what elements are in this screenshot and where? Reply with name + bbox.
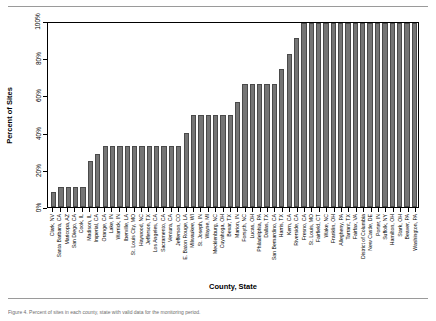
x-tick-slot bbox=[168, 208, 175, 212]
bar[interactable] bbox=[110, 146, 115, 207]
bar[interactable] bbox=[301, 23, 306, 207]
bar[interactable] bbox=[250, 84, 255, 207]
bar[interactable] bbox=[51, 192, 56, 207]
bar[interactable] bbox=[66, 187, 71, 207]
bar[interactable] bbox=[316, 23, 321, 207]
bar[interactable] bbox=[404, 23, 409, 207]
bar-slot bbox=[293, 23, 300, 207]
x-tick-mark bbox=[348, 208, 349, 212]
bar[interactable] bbox=[228, 115, 233, 207]
bar[interactable] bbox=[117, 146, 122, 207]
bar[interactable] bbox=[88, 161, 93, 207]
bar[interactable] bbox=[390, 23, 395, 207]
x-tick-mark bbox=[282, 208, 283, 212]
bar[interactable] bbox=[309, 23, 314, 207]
bar[interactable] bbox=[345, 23, 350, 207]
bar-slot bbox=[256, 23, 263, 207]
bar[interactable] bbox=[184, 133, 189, 207]
bar[interactable] bbox=[139, 146, 144, 207]
bar[interactable] bbox=[103, 146, 108, 207]
x-label-slot: Los Angeles, CA bbox=[153, 213, 160, 279]
bar[interactable] bbox=[264, 84, 269, 207]
x-tick-slot bbox=[227, 208, 234, 212]
x-axis-tick-label: Ventura, CA bbox=[169, 214, 174, 242]
bar[interactable] bbox=[294, 38, 299, 207]
x-label-slot: Clark, NV bbox=[49, 213, 56, 279]
bar[interactable] bbox=[176, 146, 181, 207]
x-axis-tick-label: Fairfield, CT bbox=[317, 214, 322, 242]
bar-slot bbox=[79, 23, 86, 207]
bar-slot bbox=[315, 23, 322, 207]
x-tick-mark bbox=[245, 208, 246, 212]
bar[interactable] bbox=[73, 187, 78, 207]
bar[interactable] bbox=[397, 23, 402, 207]
bar-slot bbox=[197, 23, 204, 207]
bar[interactable] bbox=[272, 84, 277, 207]
bar[interactable] bbox=[242, 84, 247, 207]
bar[interactable] bbox=[375, 23, 380, 207]
bar[interactable] bbox=[147, 146, 152, 207]
x-axis-tick-label: Suffolk, NY bbox=[383, 214, 388, 240]
x-tick-slot bbox=[219, 208, 226, 212]
x-tick-mark bbox=[378, 208, 379, 212]
bar-slot bbox=[219, 23, 226, 207]
x-axis-tick-label: Beaver, PA bbox=[406, 214, 411, 240]
bar[interactable] bbox=[154, 146, 159, 207]
bar[interactable] bbox=[206, 115, 211, 207]
bar[interactable] bbox=[257, 84, 262, 207]
x-label-slot: Mecklenburg, NC bbox=[212, 213, 219, 279]
bar[interactable] bbox=[58, 187, 63, 207]
x-tick-mark bbox=[97, 208, 98, 212]
bar[interactable] bbox=[132, 146, 137, 207]
x-axis-tick-label: Imperial, CA bbox=[95, 214, 100, 243]
x-axis-tick-label: Jefferson, CO bbox=[176, 214, 181, 246]
bar[interactable] bbox=[235, 102, 240, 207]
bar-slot bbox=[109, 23, 116, 207]
bar[interactable] bbox=[382, 23, 387, 207]
x-label-slot: St. Louis City, MO bbox=[130, 213, 137, 279]
x-label-slot: Madison, IL bbox=[86, 213, 93, 279]
x-label-slot: Jefferson, CO bbox=[175, 213, 182, 279]
x-axis-tick-label: Fresno, CA bbox=[302, 214, 307, 240]
bar[interactable] bbox=[125, 146, 130, 207]
bar[interactable] bbox=[287, 54, 292, 207]
bar[interactable] bbox=[213, 115, 218, 207]
bar[interactable] bbox=[169, 146, 174, 207]
bar[interactable] bbox=[191, 115, 196, 207]
bar[interactable] bbox=[360, 23, 365, 207]
x-tick-mark bbox=[341, 208, 342, 212]
x-label-slot: Bexar, TX bbox=[227, 213, 234, 279]
bar[interactable] bbox=[323, 23, 328, 207]
x-tick-mark bbox=[193, 208, 194, 212]
bar[interactable] bbox=[198, 115, 203, 207]
x-tick-mark bbox=[267, 208, 268, 212]
bar[interactable] bbox=[80, 187, 85, 207]
x-tick-mark bbox=[111, 208, 112, 212]
x-tick-slot bbox=[197, 208, 204, 212]
page-rule-bottom bbox=[8, 298, 428, 299]
x-axis-tick-label: Philadelphia, PA bbox=[257, 214, 262, 252]
x-tick-slot bbox=[345, 208, 352, 212]
x-axis-tick-label: St. Joseph, IN bbox=[198, 214, 203, 247]
bar[interactable] bbox=[220, 115, 225, 207]
bar[interactable] bbox=[367, 23, 372, 207]
x-tick-slot bbox=[160, 208, 167, 212]
bar[interactable] bbox=[338, 23, 343, 207]
x-axis-tick-label: New Castle, DE bbox=[369, 214, 374, 251]
x-label-slot: District of Columbia bbox=[360, 213, 367, 279]
bar[interactable] bbox=[412, 23, 417, 207]
bar-slot bbox=[57, 23, 64, 207]
bar[interactable] bbox=[161, 146, 166, 207]
bar-slot bbox=[322, 23, 329, 207]
bar[interactable] bbox=[279, 69, 284, 207]
bar[interactable] bbox=[331, 23, 336, 207]
bar-slot bbox=[300, 23, 307, 207]
bar[interactable] bbox=[353, 23, 358, 207]
bar[interactable] bbox=[95, 154, 100, 207]
x-tick-mark bbox=[297, 208, 298, 212]
x-tick-mark bbox=[52, 208, 53, 212]
bar-slot bbox=[190, 23, 197, 207]
bar-slot bbox=[131, 23, 138, 207]
x-label-slot: Warrick, IN bbox=[116, 213, 123, 279]
x-label-slot: Kern, CA bbox=[286, 213, 293, 279]
